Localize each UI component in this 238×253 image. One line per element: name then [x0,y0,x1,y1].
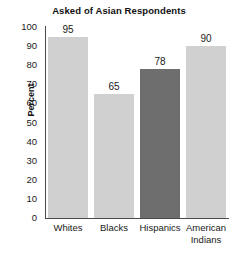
bar-value-label: 78 [134,56,186,67]
bar-chart: Asked of Asian Respondents Percent 10090… [0,0,238,253]
bar-hispanics [140,69,180,218]
bar-whites [48,37,88,218]
bars-container: 95Whites65Blacks78Hispanics90AmericanInd… [0,0,238,253]
x-axis-label-american-indians: AmericanIndians [179,222,233,245]
bar-value-label: 95 [42,24,94,35]
bar-value-label: 65 [88,81,140,92]
bar-value-label: 90 [180,33,232,44]
x-axis-label-line: Indians [179,234,233,246]
bar-blacks [94,94,134,218]
bar-american-indians [186,46,226,218]
x-axis-label-line: American [179,222,233,234]
